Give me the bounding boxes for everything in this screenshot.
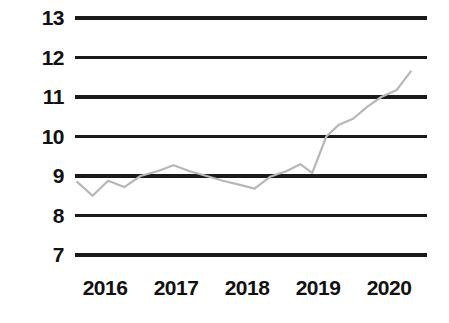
- x-axis-tick-label: 2019: [296, 276, 341, 300]
- x-axis-tick-label: 2016: [83, 276, 128, 300]
- x-axis-tick-label: 2017: [154, 276, 199, 300]
- line-chart: 78910111213 20162017201820192020: [0, 0, 449, 323]
- x-axis: 20162017201820192020: [0, 0, 449, 323]
- x-axis-tick-label: 2018: [225, 276, 270, 300]
- x-axis-tick-label: 2020: [367, 276, 412, 300]
